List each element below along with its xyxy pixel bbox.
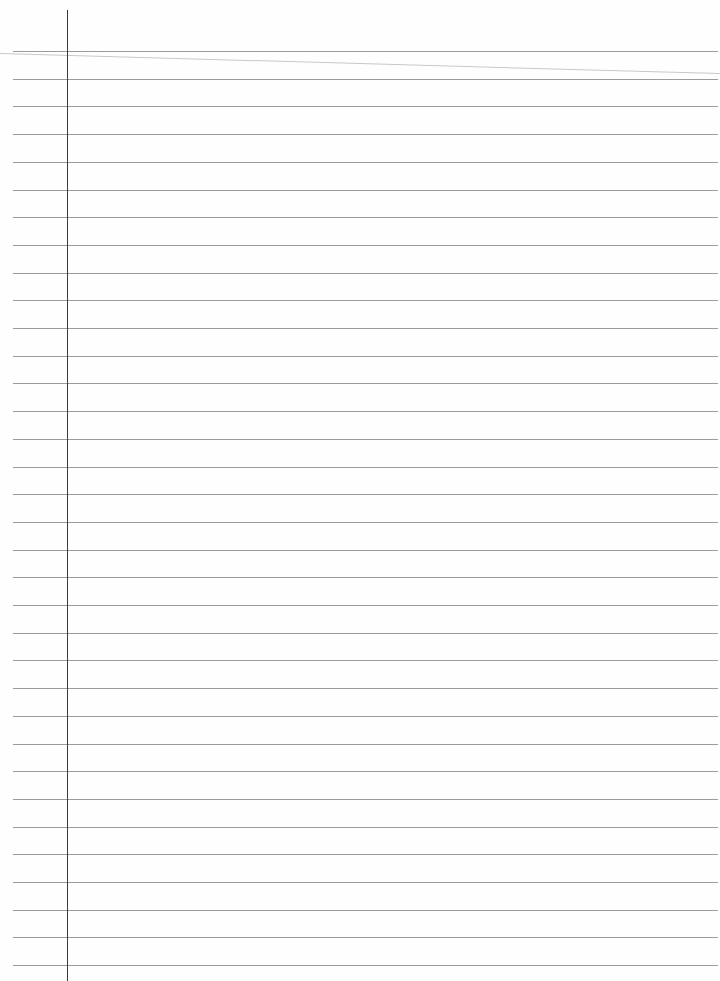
ruled-line [13,383,718,384]
ruled-line [13,328,718,329]
ruled-line [13,771,718,772]
ruled-line [13,965,718,966]
ruled-line [13,716,718,717]
ruled-line [13,134,718,135]
ruled-line [13,660,718,661]
ruled-line [13,688,718,689]
ruled-line [13,633,718,634]
ruled-line [13,522,718,523]
ruled-line [13,273,718,274]
ruled-line [13,439,718,440]
ruled-line [13,245,718,246]
ruled-line [13,494,718,495]
faint-diagonal-mark [0,53,720,74]
ruled-line [13,79,718,80]
ruled-line [13,937,718,938]
ruled-line [13,106,718,107]
ruled-line [13,162,718,163]
ruled-line [13,190,718,191]
ruled-line [13,854,718,855]
ruled-line [13,827,718,828]
ruled-line [13,882,718,883]
ruled-line [13,51,718,52]
ruled-line [13,411,718,412]
ruled-line [13,467,718,468]
ruled-line [13,910,718,911]
ruled-line [13,356,718,357]
ruled-line [13,744,718,745]
ruled-line [13,300,718,301]
ruled-line [13,217,718,218]
margin-line [67,10,68,981]
ruled-line [13,550,718,551]
ruled-line [13,605,718,606]
ruled-line [13,577,718,578]
ruled-line [13,799,718,800]
